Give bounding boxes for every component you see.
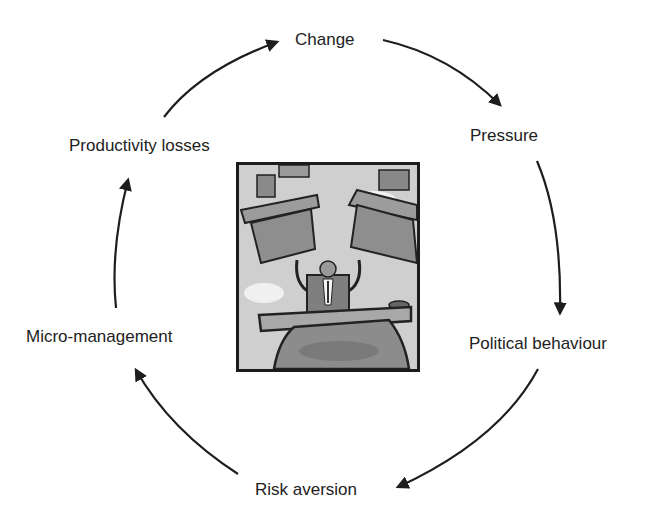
node-political-behaviour: Political behaviour xyxy=(469,335,607,352)
node-pressure: Pressure xyxy=(470,127,538,144)
node-micro-management: Micro-management xyxy=(26,328,172,345)
manager-juggling-desks-image xyxy=(239,165,417,369)
node-risk-aversion: Risk aversion xyxy=(255,481,357,498)
arrow-productivity-to-change xyxy=(164,42,277,117)
arrow-pressure-to-political xyxy=(537,161,560,313)
node-productivity-losses: Productivity losses xyxy=(69,137,210,154)
center-illustration xyxy=(236,162,420,372)
arrow-political-to-risk xyxy=(398,369,538,487)
arrow-risk-to-micro xyxy=(136,370,238,474)
node-change: Change xyxy=(295,31,355,48)
arrow-micro-to-productivity xyxy=(115,180,129,308)
arrow-change-to-pressure xyxy=(383,40,500,105)
